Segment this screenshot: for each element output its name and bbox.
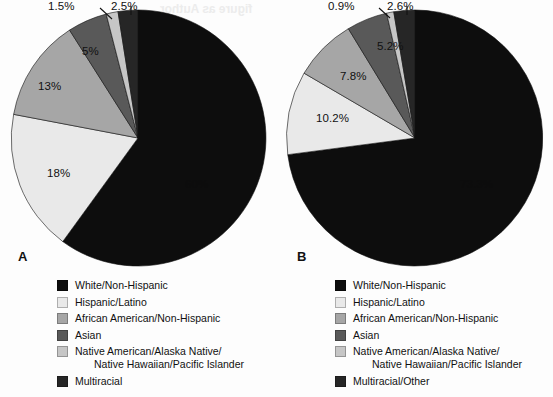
legend-label-native-american-line1: Native American/Alaska Native/ — [353, 345, 499, 357]
pie-a-svg — [0, 0, 276, 278]
legend-label-native-american-line2: Native Hawaiian/Pacific Islander — [353, 358, 522, 371]
legend-item: White/Non-Hispanic — [57, 279, 244, 292]
legend-label-african-american: African American/Non-Hispanic — [353, 312, 498, 325]
legend-label-white-non-hispanic: White/Non-Hispanic — [353, 279, 446, 292]
legend-item: African American/Non-Hispanic — [335, 312, 522, 325]
legend-label-multiracial: Multiracial — [75, 375, 122, 388]
legend-label-multiracial-other: Multiracial/Other — [353, 375, 429, 388]
pie-b-svg — [277, 0, 553, 278]
legend-item: Asian — [57, 329, 244, 342]
panel-label-b: B — [297, 249, 307, 264]
legend-swatch-african-american — [57, 313, 68, 324]
figure-two-pie-charts: figure as Author 60% — [0, 0, 553, 397]
legend-swatch-hispanic-latino — [335, 297, 346, 308]
slice-a-label-multiracial: 2.5% — [111, 0, 138, 12]
legend-item: White/Non-Hispanic — [335, 279, 522, 292]
legend-label-native-american: Native American/Alaska Native/ Native Ha… — [353, 345, 522, 371]
legend-label-asian: Asian — [353, 329, 379, 342]
legend-swatch-native-american — [335, 346, 346, 357]
slice-b-label-native: 0.9% — [328, 0, 355, 12]
slice-b-label-hispanic: 10.2% — [316, 112, 349, 124]
legend-swatch-multiracial — [57, 376, 68, 387]
legend-item: Native American/Alaska Native/ Native Ha… — [335, 345, 522, 371]
legend-label-white-non-hispanic: White/Non-Hispanic — [75, 279, 168, 292]
slice-a-label-african: 13% — [38, 80, 61, 92]
legend-item: Hispanic/Latino — [57, 296, 244, 309]
legend-swatch-white-non-hispanic — [57, 280, 68, 291]
legend-swatch-asian — [57, 330, 68, 341]
panel-b: 73.3% 10.2% 7.8% 5.2% 0.9% 2.6% B — [277, 0, 553, 278]
legend-swatch-multiracial-other — [335, 376, 346, 387]
legend-swatch-african-american — [335, 313, 346, 324]
legend-item: Multiracial — [57, 375, 244, 388]
slice-a-label-asian: 5% — [82, 45, 99, 57]
slice-a-label-hispanic: 18% — [47, 167, 70, 179]
pie-chart-a: 60% 18% 13% 5% 1.5% 2.5% — [0, 0, 276, 278]
legend-chart-b: White/Non-Hispanic Hispanic/Latino Afric… — [335, 279, 522, 391]
slice-b-label-multiracial: 2.6% — [387, 0, 414, 12]
legend-item: Hispanic/Latino — [335, 296, 522, 309]
slice-b-label-african: 7.8% — [340, 70, 367, 82]
legend-swatch-asian — [335, 330, 346, 341]
legend-label-hispanic-latino: Hispanic/Latino — [75, 296, 147, 309]
legend-label-native-american-line1: Native American/Alaska Native/ — [75, 345, 221, 357]
slice-a-label-native: 1.5% — [48, 0, 75, 12]
legend-item: Multiracial/Other — [335, 375, 522, 388]
legend-label-asian: Asian — [75, 329, 101, 342]
legend-item: Asian — [335, 329, 522, 342]
legend-label-native-american: Native American/Alaska Native/ Native Ha… — [75, 345, 244, 371]
panel-a: 60% 18% 13% 5% 1.5% 2.5% A — [0, 0, 276, 278]
legend-swatch-white-non-hispanic — [335, 280, 346, 291]
panel-label-a: A — [18, 249, 28, 264]
legend-chart-a: White/Non-Hispanic Hispanic/Latino Afric… — [57, 279, 244, 391]
slice-b-label-asian: 5.2% — [377, 40, 404, 52]
legend-label-african-american: African American/Non-Hispanic — [75, 312, 220, 325]
slice-b-label-white: 73.3% — [460, 178, 493, 190]
pie-chart-b: 73.3% 10.2% 7.8% 5.2% 0.9% 2.6% — [277, 0, 553, 278]
legend-swatch-native-american — [57, 346, 68, 357]
legend-swatch-hispanic-latino — [57, 297, 68, 308]
legend-label-hispanic-latino: Hispanic/Latino — [353, 296, 425, 309]
slice-a-label-white: 60% — [185, 178, 208, 190]
legend-label-native-american-line2: Native Hawaiian/Pacific Islander — [75, 358, 244, 371]
legend-item: Native American/Alaska Native/ Native Ha… — [57, 345, 244, 371]
legend-item: African American/Non-Hispanic — [57, 312, 244, 325]
